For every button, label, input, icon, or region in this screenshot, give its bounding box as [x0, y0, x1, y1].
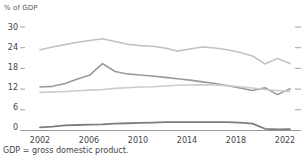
series-line-series-1: [40, 39, 290, 64]
series-line-series-4: [40, 122, 290, 129]
y-tick-marks: [20, 27, 25, 131]
series-group: [40, 39, 290, 130]
series-line-series-3: [40, 85, 290, 93]
plot-area: [0, 0, 304, 159]
right-tick-marks: [295, 27, 301, 131]
footnote: GDP = gross domestic product.: [3, 146, 128, 155]
series-line-series-2: [40, 64, 290, 95]
chart-container: % of GDP 30 24 18 12 6 0 2002 2006 2010 …: [0, 0, 304, 159]
